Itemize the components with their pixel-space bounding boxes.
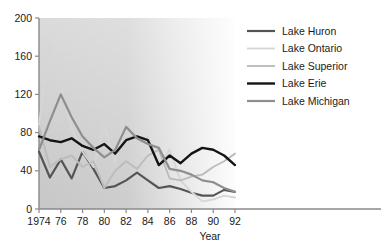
legend-label: Lake Michigan (282, 95, 350, 107)
y-axis-tick-labels: 04080120160200 (14, 12, 32, 215)
line-chart: 04080120160200 1974767880828486889092 Ye… (0, 0, 390, 252)
legend-label: Lake Huron (282, 25, 336, 37)
x-tick-label: 84 (142, 215, 154, 227)
legend-label: Lake Ontario (282, 42, 342, 54)
x-tick-label: 82 (120, 215, 132, 227)
x-tick-label: 76 (55, 215, 67, 227)
x-tick-label: 88 (186, 215, 198, 227)
x-axis-title: Year (199, 230, 221, 242)
x-tick-label: 92 (229, 215, 241, 227)
y-tick-label: 40 (20, 164, 32, 176)
x-tick-label: 78 (77, 215, 89, 227)
chart-legend: Lake HuronLake OntarioLake SuperiorLake … (247, 25, 350, 107)
y-tick-label: 0 (26, 203, 32, 215)
legend-label: Lake Erie (282, 77, 327, 89)
y-tick-label: 160 (14, 50, 32, 62)
legend-label: Lake Superior (282, 60, 348, 72)
y-axis: 04080120160200 (14, 12, 39, 215)
y-tick-label: 200 (14, 12, 32, 24)
y-tick-label: 80 (20, 126, 32, 138)
x-axis: 1974767880828486889092 Year (27, 209, 381, 242)
x-tick-label: 90 (207, 215, 219, 227)
x-tick-label: 80 (98, 215, 110, 227)
y-tick-label: 120 (14, 88, 32, 100)
x-tick-label: 1974 (27, 215, 51, 227)
chart-canvas: 04080120160200 1974767880828486889092 Ye… (0, 0, 390, 252)
x-axis-tick-labels: 1974767880828486889092 (27, 215, 241, 227)
x-tick-label: 86 (164, 215, 176, 227)
